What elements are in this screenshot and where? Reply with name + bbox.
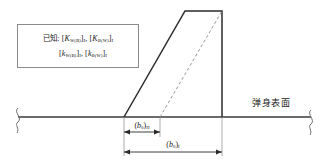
break-symbol-right-icon (310, 110, 313, 135)
arrowhead-lower-left-icon (124, 150, 130, 155)
given-term-kbw-lower: [kB(W)]I (85, 49, 107, 58)
given-term-kwb-upper: [KW(B)]I, (62, 34, 90, 43)
dimension-label-b0-I: (b0)I (124, 140, 222, 149)
body-surface-label: 弹身表面 (252, 96, 290, 109)
given-line-uppercase-k: 已知: [KW(B)]I, [KB(W)]I (18, 32, 138, 43)
arrowhead-lower-right-icon (216, 150, 222, 155)
given-prefix-label: 已知: (43, 34, 60, 43)
given-line-lowercase-k: [kW(B)]I, [kB(W)]I (18, 49, 138, 58)
break-symbol-left-icon (17, 108, 20, 133)
wing-body-interference-diagram: 已知: [KW(B)]I, [KB(W)]I [kW(B)]I, [kB(W)]… (0, 0, 329, 167)
given-term-kbw-upper: [KB(W)]I (90, 34, 114, 43)
arrowhead-upper-left-icon (124, 130, 130, 135)
given-term-kwb-lower: [kW(B)]I, (59, 49, 85, 58)
wing-dashed-reference-line (160, 11, 222, 117)
dimension-label-b0-II: (b0)II (124, 121, 160, 130)
arrowhead-upper-right-icon (154, 130, 160, 135)
given-conditions-box: 已知: [KW(B)]I, [KB(W)]I [kW(B)]I, [kB(W)]… (17, 24, 139, 68)
